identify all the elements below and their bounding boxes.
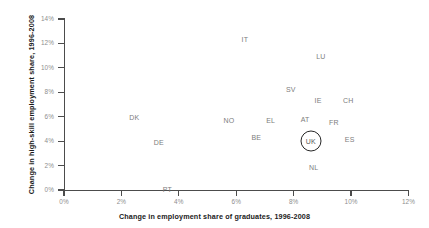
data-point-fr: FR [329, 118, 339, 125]
x-tick-label: 8% [279, 198, 309, 205]
x-tick-label: 4% [164, 198, 194, 205]
x-tick [63, 190, 64, 196]
x-axis-title: Change in employment share of graduates,… [0, 212, 429, 221]
x-tick [121, 190, 122, 196]
data-point-uk: UK [306, 138, 316, 145]
x-tick-label: 12% [394, 198, 424, 205]
x-tick [293, 190, 294, 196]
data-point-de: DE [154, 139, 164, 146]
x-tick [408, 190, 409, 196]
y-tick [58, 141, 64, 142]
data-point-no: NO [224, 116, 235, 123]
data-point-it: IT [242, 35, 249, 42]
scatter-chart: 0%2%4%6%8%10%12%14% 0%2%4%6%8%10%12% ITL… [0, 0, 429, 228]
x-tick [350, 190, 351, 196]
data-point-el: EL [266, 117, 275, 124]
y-tick [58, 92, 64, 93]
x-tick [178, 190, 179, 196]
data-point-ch: CH [343, 96, 354, 103]
x-tick-label: 10% [336, 198, 366, 205]
data-point-pt: PT [163, 186, 172, 193]
y-tick [58, 116, 64, 117]
data-point-dk: DK [129, 113, 139, 120]
x-tick-label: 6% [221, 198, 251, 205]
y-axis-title: Change in high-skill employment share, 1… [27, 10, 36, 200]
y-tick [58, 67, 64, 68]
data-point-es: ES [345, 135, 355, 142]
y-tick [58, 18, 64, 19]
y-axis-line [64, 18, 65, 191]
data-point-ie: IE [315, 96, 322, 103]
data-point-sv: SV [286, 85, 296, 92]
y-tick [58, 43, 64, 44]
data-point-at: AT [301, 116, 310, 123]
data-point-be: BE [251, 134, 261, 141]
x-tick [236, 190, 237, 196]
x-tick-label: 0% [49, 198, 79, 205]
y-tick [58, 165, 64, 166]
data-point-nl: NL [309, 163, 318, 170]
data-point-lu: LU [316, 52, 325, 59]
x-tick-label: 2% [106, 198, 136, 205]
